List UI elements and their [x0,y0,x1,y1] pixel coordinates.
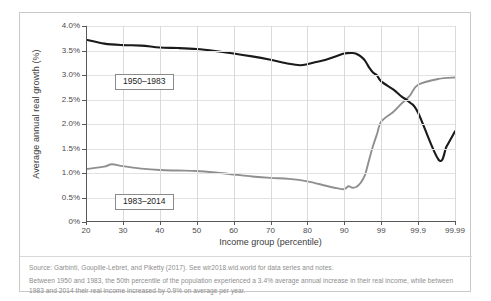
x-axis-label: Income group (percentile) [86,237,455,247]
x-tick-mark [123,221,124,225]
x-tick-mark [455,221,456,225]
x-tick-mark [197,221,198,225]
x-tick-label: 40 [140,226,180,235]
x-tick-mark [418,221,419,225]
y-axis-label: Average annual real growth (%) [31,29,41,199]
y-tick-mark [82,124,87,125]
x-tick-label: 20 [66,226,106,235]
y-tick-mark [82,75,87,76]
y-tick-label: 2.5% [42,95,80,104]
x-tick-mark [381,221,382,225]
y-tick-label: 4.0% [42,21,80,30]
y-tick-mark [82,100,87,101]
y-tick-mark [82,149,87,150]
gridline-vertical [344,26,345,222]
y-tick-mark [82,198,87,199]
x-tick-label: 30 [103,226,143,235]
y-tick-mark [82,173,87,174]
y-tick-mark [82,26,87,27]
gridline-vertical [271,26,272,222]
x-tick-label: 99 [361,226,401,235]
y-tick-label: 1.5% [42,144,80,153]
figure-notes: Source: Garbinti, Goupille-Lebret, and P… [20,256,472,292]
gridline-vertical [160,26,161,222]
y-tick-label: 2.0% [42,119,80,128]
gridline-vertical [123,26,124,222]
x-tick-mark [271,221,272,225]
gridline-vertical [234,26,235,222]
x-tick-label: 80 [287,226,327,235]
x-tick-label: 60 [214,226,254,235]
gridline-vertical [197,26,198,222]
series-label-1950-1983: 1950–1983 [115,74,174,90]
x-tick-mark [86,221,87,225]
x-tick-label: 99.99 [435,226,475,235]
y-tick-label: 1.0% [42,168,80,177]
x-tick-mark [160,221,161,225]
gridline-vertical [307,26,308,222]
y-tick-label: 3.0% [42,70,80,79]
x-tick-label: 70 [251,226,291,235]
series-label-1983-2014: 1983–2014 [115,194,174,210]
y-tick-label: 0% [42,217,80,226]
gridline-vertical [381,26,382,222]
figure-container: Average annual real growth (%) 0%0.5%1.0… [19,12,471,292]
y-tick-label: 3.5% [42,46,80,55]
x-tick-label: 50 [177,226,217,235]
x-tick-label: 99.9 [398,226,438,235]
plot-region: 0%0.5%1.0%1.5%2.0%2.5%3.0%3.5%4.0% 20304… [86,26,455,222]
x-tick-mark [307,221,308,225]
source-note: Source: Garbinti, Goupille-Lebret, and P… [29,263,463,273]
x-tick-mark [344,221,345,225]
y-tick-mark [82,51,87,52]
gridline-vertical [418,26,419,222]
explainer-note: Between 1950 and 1983, the 50th percenti… [29,276,463,296]
x-tick-mark [234,221,235,225]
gridline-vertical [455,26,456,222]
chart-area: Average annual real growth (%) 0%0.5%1.0… [20,13,472,256]
x-tick-label: 90 [324,226,364,235]
y-tick-label: 0.5% [42,193,80,202]
